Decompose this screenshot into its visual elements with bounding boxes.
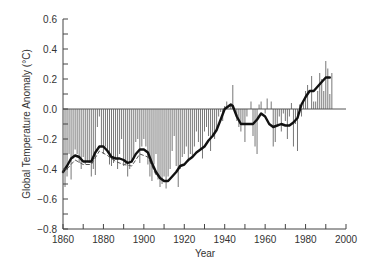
- x-tick-label: 1860: [52, 234, 75, 245]
- y-tick-label: 0.4: [43, 44, 57, 55]
- y-tick-label: −0.8: [37, 224, 57, 235]
- x-tick-label: 1960: [254, 234, 277, 245]
- y-tick-label: 0.0: [43, 104, 57, 115]
- y-tick-label: 0.2: [43, 74, 57, 85]
- x-tick-label: 1880: [92, 234, 115, 245]
- x-tick-label: 1980: [294, 234, 317, 245]
- x-tick-label: 1940: [214, 234, 237, 245]
- x-tick-label: 1920: [173, 234, 196, 245]
- y-tick-label: −0.2: [37, 134, 57, 145]
- x-axis-title: Year: [195, 248, 216, 259]
- y-tick-label: 0.6: [43, 14, 57, 25]
- x-tick-label: 1900: [133, 234, 156, 245]
- y-tick-label: −0.4: [37, 164, 57, 175]
- temperature-anomaly-chart: −0.8−0.6−0.4−0.20.00.20.40.6186018801900…: [0, 0, 373, 271]
- y-axis-title: Global Temperature Anomaly (°C): [21, 49, 32, 198]
- y-tick-label: −0.6: [37, 194, 57, 205]
- x-tick-label: 2000: [335, 234, 358, 245]
